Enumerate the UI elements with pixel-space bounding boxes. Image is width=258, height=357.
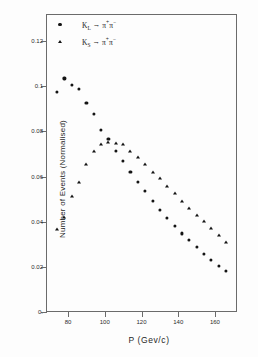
data-point — [121, 143, 125, 146]
data-point — [224, 241, 228, 244]
x-tick-label: 120 — [136, 319, 146, 325]
x-tick-mark — [105, 311, 106, 317]
data-point — [180, 232, 183, 235]
data-point — [77, 87, 80, 90]
y-tick-label: 0. — [38, 309, 43, 315]
figure-canvas: Number of Events (Normalised) 0.0.020.04… — [0, 0, 258, 357]
plot-area: 0.0.020.040.060.080.10.12 80100120140160 — [46, 14, 237, 312]
data-point — [166, 216, 169, 219]
x-tick-mark — [142, 311, 143, 317]
data-point — [129, 170, 132, 173]
data-point — [77, 180, 81, 183]
y-tick-label: 0.1 — [35, 83, 43, 89]
legend-label-ks: KS→π+π− — [82, 36, 116, 48]
data-point — [55, 227, 59, 230]
data-point — [151, 170, 155, 173]
data-point — [62, 215, 66, 218]
data-point — [136, 155, 140, 158]
legend-label-kl: KL→π+π− — [82, 19, 116, 31]
data-point — [217, 264, 220, 267]
data-point — [210, 258, 213, 261]
data-point — [106, 140, 110, 143]
x-tick-label: 160 — [210, 319, 220, 325]
data-point — [55, 90, 58, 93]
data-point — [70, 84, 73, 87]
y-tick-label: 0.02 — [31, 264, 43, 270]
data-point — [217, 233, 221, 236]
x-axis-title: P (Gev/c) — [0, 335, 258, 345]
x-tick-label: 80 — [65, 319, 72, 325]
data-point — [173, 191, 177, 194]
y-tick-label: 0.08 — [31, 128, 43, 134]
y-tick-label: 0.04 — [31, 219, 43, 225]
data-point — [224, 269, 227, 272]
data-point — [122, 160, 125, 163]
data-point — [114, 150, 117, 153]
data-point — [158, 177, 162, 180]
data-point — [180, 199, 184, 202]
data-point — [158, 208, 161, 211]
x-tick-mark — [68, 311, 69, 317]
chart-legend: KL→π+π− KS→π+π− — [52, 16, 172, 50]
data-point — [70, 195, 74, 198]
x-tick-mark — [178, 311, 179, 317]
data-point — [92, 112, 95, 115]
data-point — [195, 245, 198, 248]
data-point — [202, 252, 205, 255]
legend-item-ks: KS→π+π− — [52, 33, 172, 50]
data-point — [202, 220, 206, 223]
data-point — [100, 129, 103, 132]
data-point — [188, 239, 191, 242]
data-point — [136, 180, 139, 183]
data-point — [209, 227, 213, 230]
legend-circle-marker-icon — [52, 23, 68, 26]
data-point — [195, 214, 199, 217]
data-point — [151, 199, 154, 202]
y-tick-label: 0.12 — [31, 38, 43, 44]
data-point — [92, 150, 96, 153]
data-point — [173, 224, 176, 227]
data-point — [165, 185, 169, 188]
legend-triangle-marker-icon — [52, 40, 68, 43]
data-point — [187, 206, 191, 209]
data-point — [114, 142, 118, 145]
x-tick-mark — [215, 311, 216, 317]
legend-item-kl: KL→π+π− — [52, 16, 172, 33]
y-tick-label: 0.06 — [31, 174, 43, 180]
x-tick-label: 140 — [173, 319, 183, 325]
x-tick-label: 100 — [100, 319, 110, 325]
data-point — [99, 142, 103, 145]
data-point — [128, 150, 132, 153]
data-point — [85, 102, 88, 105]
data-point — [84, 163, 88, 166]
data-point — [144, 190, 147, 193]
data-point — [143, 163, 147, 166]
data-point — [63, 77, 66, 80]
